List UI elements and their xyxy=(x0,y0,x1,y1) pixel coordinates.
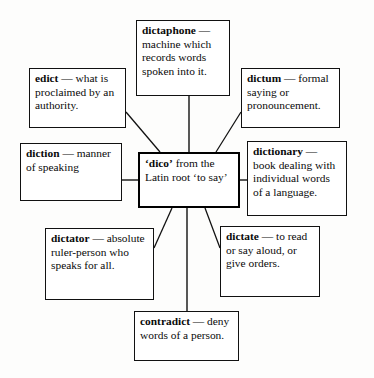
node-contradict-term: contradict xyxy=(140,315,190,327)
word-web-diagram: dictaphone — machine which records words… xyxy=(0,0,374,378)
node-diction-term: diction xyxy=(26,147,60,159)
node-dictate[interactable]: dictate — to read or say aloud, or give … xyxy=(220,226,320,297)
connector-dictate xyxy=(205,208,220,248)
node-dictionary[interactable]: dictionary — book dealing with individua… xyxy=(247,141,347,216)
node-dico-center[interactable]: ‘dico’ from the Latin root ‘to say’ xyxy=(138,152,240,208)
node-dico-term: ‘dico’ xyxy=(145,157,173,169)
connector-dictum xyxy=(216,112,241,152)
node-dictate-term: dictate xyxy=(226,230,259,242)
node-dictaphone-term: dictaphone xyxy=(142,24,196,36)
node-dictator-term: dictator xyxy=(51,232,90,244)
node-dictum-term: dictum xyxy=(247,72,281,84)
node-dictum[interactable]: dictum — formal saying or pronouncement. xyxy=(241,68,340,128)
node-edict[interactable]: edict — what is proclaimed by an authori… xyxy=(29,68,126,128)
node-edict-term: edict xyxy=(35,72,58,84)
node-dictionary-term: dictionary xyxy=(253,145,303,157)
node-diction[interactable]: diction — manner of speaking xyxy=(20,143,122,201)
node-dictator[interactable]: dictator — absolute ruler-person who spe… xyxy=(45,228,154,300)
node-contradict[interactable]: contradict — deny words of a person. xyxy=(134,311,239,361)
node-dictaphone[interactable]: dictaphone — machine which records words… xyxy=(136,20,230,96)
connector-dictator xyxy=(154,208,172,248)
connector-edict xyxy=(126,112,160,152)
